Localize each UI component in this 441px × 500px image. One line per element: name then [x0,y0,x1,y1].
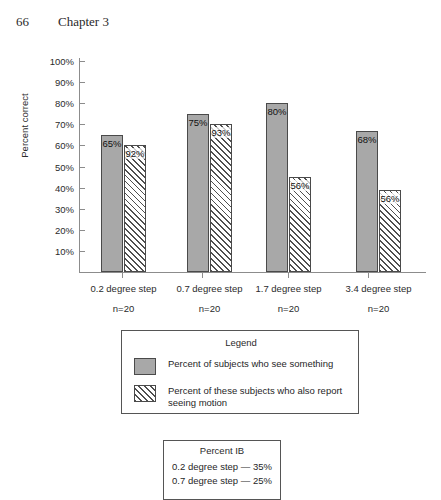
y-axis-tick-label: 80% [28,98,74,109]
legend-swatch-solid-icon [134,358,156,375]
bar-solid: 68% [356,131,378,272]
bar-hatched: 56% [289,177,311,272]
y-axis-line [79,58,80,273]
bar-solid: 65% [101,135,123,272]
y-axis-tick [79,82,85,83]
x-axis-category-label: 3.4 degree step [327,283,431,294]
x-axis-tick [122,272,123,278]
x-axis-tick [368,272,369,278]
y-axis-tick-label: 70% [28,119,74,130]
y-axis-tick-label: 100% [28,56,74,67]
y-axis-tick-label: 60% [28,140,74,151]
y-axis-tick [79,103,85,104]
y-axis-tick-label: 40% [28,182,74,193]
bar-value-label: 56% [380,193,400,204]
bar-hatched: 56% [379,190,401,272]
legend-title: Legend [122,337,360,348]
bar-solid: 80% [266,103,288,272]
y-axis-tick-label: 90% [28,77,74,88]
percent-ib-row: 0.2 degree step — 35% [164,461,280,472]
y-axis-tick-label: 20% [28,224,74,235]
bar-chart: Percent correct 100%90%80%70%60%50%40%30… [0,0,441,330]
y-axis-tick [79,167,85,168]
x-axis-sample-size-label: n=20 [327,303,431,314]
bar-value-label: 93% [211,127,231,138]
y-axis-tick [79,61,85,62]
y-axis-tick [79,188,85,189]
bar-solid: 75% [187,114,209,272]
bar-value-label: 68% [357,134,377,145]
x-axis-tick [202,272,203,278]
bar-value-label: 80% [267,106,287,117]
bar-hatched: 92% [124,145,146,272]
bar-value-label: 92% [125,148,145,159]
x-axis-line [79,272,426,273]
legend-box: Legend Percent of subjects who see somet… [121,330,359,414]
y-axis-tick [79,209,85,210]
y-axis-tick [79,124,85,125]
x-axis-category-label: 1.7 degree step [237,283,341,294]
y-axis-tick-label: 10% [28,245,74,256]
percent-ib-title: Percent IB [164,445,280,456]
legend-swatch-hatched-icon [134,385,156,402]
x-axis-tick [288,272,289,278]
legend-label: Percent of subjects who see something [168,358,348,370]
y-axis-tick-label: 30% [28,203,74,214]
y-axis-tick-label: 50% [28,161,74,172]
bar-value-label: 56% [290,180,310,191]
bar-value-label: 65% [102,138,122,149]
percent-ib-box: Percent IB 0.2 degree step — 35% 0.7 deg… [163,440,281,500]
x-axis-sample-size-label: n=20 [237,303,341,314]
legend-label: Percent of these subjects who also repor… [168,385,348,408]
percent-ib-row: 0.7 degree step — 25% [164,475,280,486]
bar-value-label: 75% [188,117,208,128]
y-axis-tick [79,251,85,252]
y-axis-tick [79,230,85,231]
y-axis-tick [79,145,85,146]
bar-hatched: 93% [210,124,232,272]
